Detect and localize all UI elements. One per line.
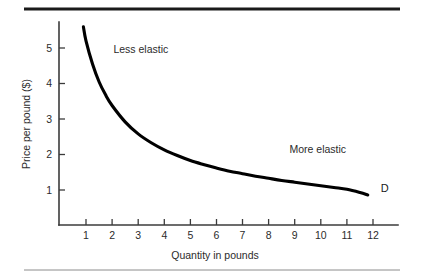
annotation-less-elastic: Less elastic <box>113 43 168 55</box>
x-tick-label-7: 7 <box>240 229 246 241</box>
x-tick-label-8: 8 <box>266 229 272 241</box>
x-tick-label-4: 4 <box>161 229 167 241</box>
y-tick-label-3: 3 <box>46 113 52 125</box>
x-tick-label-2: 2 <box>109 229 115 241</box>
x-tick-label-1: 1 <box>83 229 89 241</box>
annotation-more-elastic: More elastic <box>290 143 347 155</box>
demand-curve-figure: 1 2 3 4 5 1 2 <box>0 0 422 280</box>
x-axis-title: Quantity in pounds <box>171 249 259 261</box>
x-tick-label-6: 6 <box>214 229 220 241</box>
chart-canvas: 1 2 3 4 5 1 2 <box>0 0 422 280</box>
y-tick-label-5: 5 <box>46 42 52 54</box>
y-axis-title: Price per pound ($) <box>20 79 32 169</box>
x-tick-label-3: 3 <box>135 229 141 241</box>
demand-curve-label-d: D <box>381 182 389 194</box>
x-tick-label-9: 9 <box>292 229 298 241</box>
figure-background <box>0 0 422 280</box>
y-tick-label-1: 1 <box>46 184 52 196</box>
y-tick-label-2: 2 <box>46 148 52 160</box>
x-tick-label-10: 10 <box>315 229 327 241</box>
x-tick-label-11: 11 <box>341 229 352 241</box>
y-tick-label-4: 4 <box>46 77 52 89</box>
x-tick-label-12: 12 <box>367 229 379 241</box>
x-tick-label-5: 5 <box>187 229 193 241</box>
